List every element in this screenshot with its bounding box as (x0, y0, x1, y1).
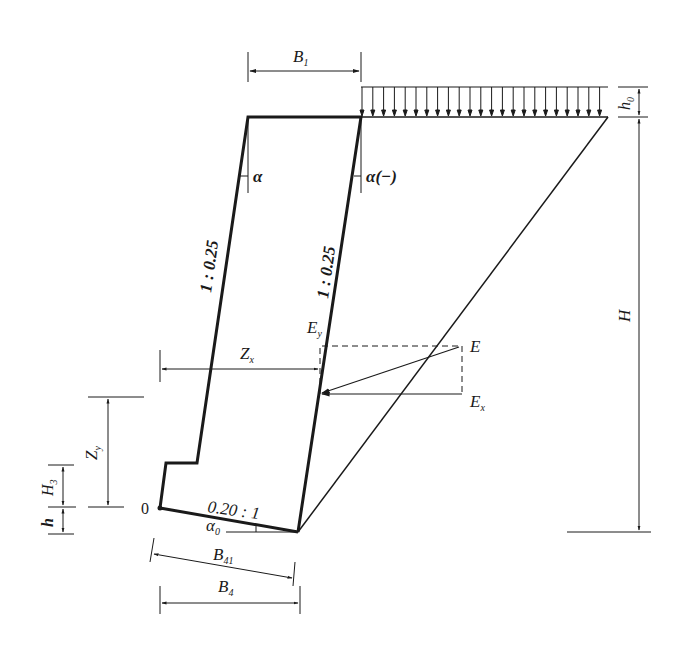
svg-text:B41: B41 (213, 545, 233, 566)
slope-front-label: 1 : 0.25 (196, 239, 222, 294)
origin-point (158, 506, 163, 511)
dimension-Zx: Zx (160, 344, 318, 382)
dimension-B1: B1 (248, 47, 361, 82)
svg-text:α(−): α(−) (366, 167, 397, 186)
svg-text:E: E (469, 337, 481, 356)
svg-text:H3: H3 (39, 479, 59, 497)
svg-text:B1: B1 (293, 47, 308, 68)
dimension-h: h (39, 509, 74, 534)
svg-text:Ey: Ey (306, 318, 322, 339)
svg-text:Ex: Ex (469, 392, 485, 413)
svg-text:B4: B4 (218, 577, 233, 598)
svg-text:α: α (253, 167, 263, 186)
dimension-H: H (567, 119, 651, 532)
slip-line (298, 117, 608, 532)
svg-text:h: h (39, 518, 56, 527)
dimension-B4: B4 (160, 577, 300, 614)
earth-pressure-force: Ey E Ex (306, 318, 485, 413)
svg-text:H: H (615, 308, 634, 323)
svg-text:h0: h0 (616, 97, 636, 110)
svg-text:Zx: Zx (240, 344, 254, 365)
svg-text:Zy: Zy (82, 446, 103, 460)
surcharge-load (360, 87, 608, 117)
dimension-H3: H3 (39, 465, 76, 507)
dimension-Zy: Zy (82, 397, 144, 507)
origin-label: 0 (141, 500, 149, 517)
retaining-wall-diagram: B1 h0 H α α(−) 1 : 0.25 1 : 0.25 Ey E Ex (0, 0, 684, 649)
dimension-h0: h0 (616, 87, 648, 117)
